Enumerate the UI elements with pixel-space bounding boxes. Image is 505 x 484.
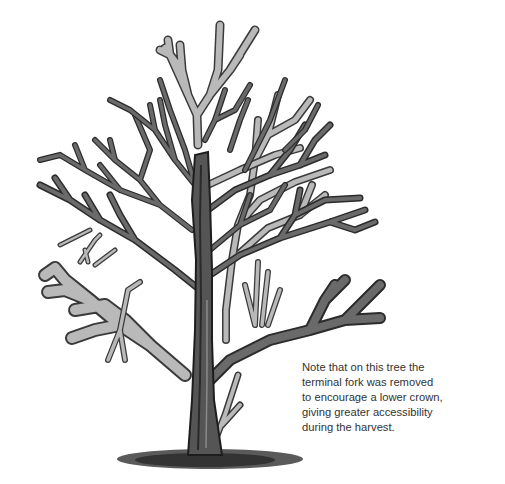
caption-line-2: terminal fork was removed [302,375,502,390]
caption: Note that on this tree the terminal fork… [302,360,502,435]
caption-line-4: giving greater accessibility [302,405,502,420]
caption-line-1: Note that on this tree the [302,360,502,375]
caption-line-3: to encourage a lower crown, [302,390,502,405]
trunk [188,152,222,455]
caption-line-5: during the harvest. [302,420,502,435]
